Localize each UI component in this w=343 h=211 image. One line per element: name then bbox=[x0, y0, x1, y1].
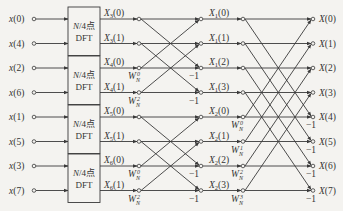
minus-one-label: −1 bbox=[306, 120, 316, 130]
stage2-cross-line bbox=[245, 45, 311, 142]
stage1-cross-line bbox=[141, 143, 199, 191]
dft-output-label: X4(1) bbox=[103, 82, 124, 93]
stage1-output-label: X1(3) bbox=[208, 82, 229, 93]
output-label-0: X(0) bbox=[318, 14, 336, 25]
dft-box-label-bottom: DFT bbox=[75, 33, 93, 43]
input-label-6: x(3) bbox=[8, 161, 24, 172]
dft-output-label: X3(1) bbox=[103, 33, 124, 44]
input-label-0: x(0) bbox=[8, 14, 24, 25]
minus-one-label: −1 bbox=[189, 194, 199, 204]
stage1-input-node bbox=[137, 66, 141, 70]
dft-output-label: X6(1) bbox=[103, 180, 124, 191]
dft-output-label: X5(1) bbox=[103, 131, 124, 142]
stage1-output-label: X2(2) bbox=[208, 155, 229, 166]
stage2-input-node bbox=[241, 17, 245, 21]
output-node bbox=[311, 17, 315, 21]
stage1-output-label: X2(0) bbox=[208, 106, 229, 117]
stage2-input-node bbox=[241, 91, 245, 95]
stage1-cross-line bbox=[141, 20, 199, 68]
stage1-input-node bbox=[137, 189, 141, 193]
minus-one-label: −1 bbox=[189, 169, 199, 179]
dft-box-label-bottom: DFT bbox=[75, 82, 93, 92]
stage1-input-node bbox=[137, 164, 141, 168]
stage1-cross-line bbox=[141, 118, 199, 166]
stage2-input-node bbox=[241, 140, 245, 144]
input-node bbox=[32, 91, 36, 95]
stage2-input-node bbox=[241, 189, 245, 193]
stage2-input-node bbox=[241, 42, 245, 46]
dft-box-label-top: N/4点 bbox=[72, 21, 95, 31]
output-node bbox=[311, 91, 315, 95]
stage1-output-label: X1(2) bbox=[208, 57, 229, 68]
stage2-cross-line bbox=[245, 20, 311, 117]
input-node bbox=[32, 115, 36, 119]
stage1-twiddle: W2N bbox=[128, 96, 141, 108]
stage2-input-node bbox=[241, 66, 245, 70]
output-label-3: X(3) bbox=[318, 88, 336, 99]
dft-box bbox=[68, 154, 100, 203]
dft-box-label-top: N/4点 bbox=[72, 119, 95, 129]
output-node bbox=[311, 42, 315, 46]
dft-box bbox=[68, 56, 100, 105]
minus-one-label: −1 bbox=[306, 194, 316, 204]
input-label-4: x(1) bbox=[8, 112, 24, 123]
stage2-cross-line bbox=[245, 19, 311, 116]
stage1-cross-line bbox=[141, 44, 199, 92]
output-label-1: X(1) bbox=[318, 39, 336, 50]
output-node bbox=[311, 115, 315, 119]
stage1-input-node bbox=[137, 17, 141, 21]
stage1-cross-line bbox=[141, 45, 199, 93]
input-label-7: x(7) bbox=[8, 186, 24, 197]
stage2-cross-line bbox=[245, 93, 311, 190]
input-node bbox=[32, 164, 36, 168]
stage1-cross-line bbox=[141, 117, 199, 165]
output-label-5: X(5) bbox=[318, 137, 336, 148]
stage1-input-node bbox=[137, 91, 141, 95]
dft-box-label-top: N/4点 bbox=[72, 168, 95, 178]
dft-box bbox=[68, 7, 100, 56]
stage1-cross-line bbox=[141, 142, 199, 190]
stage2-cross-line bbox=[245, 69, 311, 166]
stage2-twiddle: W1N bbox=[231, 145, 244, 157]
stage1-twiddle: W2N bbox=[128, 194, 141, 206]
dft-box bbox=[68, 105, 100, 154]
stage2-cross-line bbox=[245, 68, 311, 165]
output-label-6: X(6) bbox=[318, 161, 336, 172]
output-label-4: X(4) bbox=[318, 112, 336, 123]
input-label-3: x(6) bbox=[8, 88, 24, 99]
input-label-1: x(4) bbox=[8, 39, 24, 50]
stage1-input-node bbox=[137, 42, 141, 46]
output-label-2: X(2) bbox=[318, 63, 336, 74]
stage1-output-node bbox=[199, 140, 203, 144]
stage1-output-node bbox=[199, 91, 203, 95]
stage1-output-node bbox=[199, 189, 203, 193]
stage1-twiddle: W0N bbox=[128, 71, 141, 83]
stage1-output-label: X1(0) bbox=[208, 8, 229, 19]
output-node bbox=[311, 164, 315, 168]
output-node bbox=[311, 189, 315, 193]
stage2-twiddle: W3N bbox=[231, 194, 244, 206]
input-node bbox=[32, 66, 36, 70]
input-node bbox=[32, 42, 36, 46]
output-node bbox=[311, 140, 315, 144]
stage1-output-label: X1(1) bbox=[208, 33, 229, 44]
minus-one-label: −1 bbox=[189, 96, 199, 106]
input-label-2: x(2) bbox=[8, 63, 24, 74]
dft-box-label-top: N/4点 bbox=[72, 70, 95, 80]
stage1-output-node bbox=[199, 17, 203, 21]
dft-box-label-bottom: DFT bbox=[75, 131, 93, 141]
stage1-output-node bbox=[199, 66, 203, 70]
dft-output-label: X3(0) bbox=[103, 8, 124, 19]
stage1-output-node bbox=[199, 164, 203, 168]
input-node bbox=[32, 17, 36, 21]
output-label-7: X(7) bbox=[318, 186, 336, 197]
stage2-input-node bbox=[241, 164, 245, 168]
dft-output-label: X6(0) bbox=[103, 155, 124, 166]
stage1-twiddle: W0N bbox=[128, 169, 141, 181]
fft-flow-graph: x(0)x(4)x(2)x(6)x(1)x(5)x(3)x(7)N/4点DFTX… bbox=[0, 0, 343, 211]
input-node bbox=[32, 140, 36, 144]
input-label-5: x(5) bbox=[8, 137, 24, 148]
stage1-output-label: X2(3) bbox=[208, 180, 229, 191]
dft-output-label: X4(0) bbox=[103, 57, 124, 68]
stage1-output-node bbox=[199, 115, 203, 119]
